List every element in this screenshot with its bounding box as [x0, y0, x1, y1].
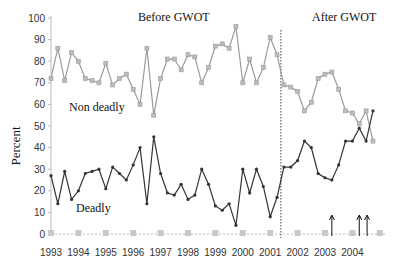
- y-tick-label: 80: [34, 56, 46, 67]
- x-tick-label: 2002: [286, 247, 309, 258]
- deadly-label: Deadly: [76, 201, 111, 215]
- series-non-deadly: [49, 25, 375, 143]
- x-tick-label: 1996: [122, 247, 145, 258]
- non-deadly-label: Non deadly: [69, 100, 125, 114]
- y-tick-label: 10: [34, 207, 46, 218]
- x-tick-label: 1994: [67, 247, 90, 258]
- x-tick-label: 2000: [232, 247, 255, 258]
- x-tick-label: 2004: [341, 247, 364, 258]
- x-tick-label: 2001: [259, 247, 282, 258]
- x-tick-label: 1993: [40, 247, 63, 258]
- x-tick-label: 1998: [177, 247, 200, 258]
- x-tick-label: 1997: [149, 247, 172, 258]
- y-tick-label: 100: [28, 13, 45, 24]
- y-tick-label: 40: [34, 142, 46, 153]
- y-tick-label: 70: [34, 77, 46, 88]
- y-tick-label: 0: [39, 229, 45, 240]
- y-tick-label: 50: [34, 121, 46, 132]
- y-tick-label: 20: [34, 185, 46, 196]
- x-tick-label: 2003: [314, 247, 337, 258]
- x-tick-label: 1995: [95, 247, 118, 258]
- before-gwot-label: Before GWOT: [138, 10, 210, 24]
- zero-markers: [48, 230, 383, 236]
- x-tick-label: 1999: [204, 247, 227, 258]
- after-gwot-label: After GWOT: [312, 10, 377, 24]
- y-tick-label: 60: [34, 99, 46, 110]
- y-tick-label: 90: [34, 34, 46, 45]
- y-axis-label: Percent: [8, 126, 23, 165]
- line-chart: 0102030405060708090100199319941995199619…: [0, 0, 399, 266]
- y-tick-label: 30: [34, 164, 46, 175]
